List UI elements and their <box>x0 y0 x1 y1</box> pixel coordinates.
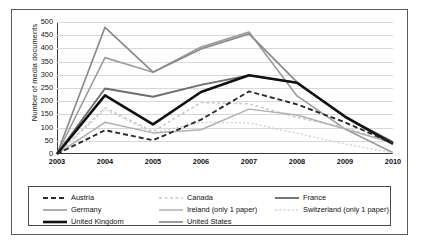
chart-legend: AustriaGermanyUnited KingdomCanadaIrelan… <box>28 186 391 226</box>
y-axis-tick-labels: 500450400350300250200150100500 <box>29 22 53 154</box>
legend-swatch-icon <box>275 193 299 203</box>
legend-item[interactable]: Ireland (only 1 paper) <box>159 204 257 215</box>
series-lines <box>57 22 393 154</box>
legend-label: United States <box>187 218 231 225</box>
series-line-united-kingdom <box>57 75 393 154</box>
legend-label: Austria <box>71 194 94 201</box>
x-tick-label: 2008 <box>289 157 305 166</box>
legend-item[interactable]: Austria <box>43 192 94 203</box>
x-tick-label: 2009 <box>337 157 353 166</box>
y-tick-label: 50 <box>45 137 53 144</box>
y-tick-label: 100 <box>41 124 53 131</box>
y-tick-label: 350 <box>41 58 53 65</box>
y-tick-label: 450 <box>41 31 53 38</box>
x-tick-label: 2006 <box>193 157 209 166</box>
plot-block: Number of media documents 50045040035030… <box>12 10 407 178</box>
x-axis-tick-labels: 20032004200520062007200820092010 <box>57 157 393 171</box>
legend-label: United Kingdom <box>71 218 124 225</box>
legend-item[interactable]: Switzerland (only 1 paper) <box>275 204 389 215</box>
chart-figure: Number of media documents 50045040035030… <box>11 9 408 235</box>
y-tick-label: 400 <box>41 45 53 52</box>
legend-item[interactable]: United Kingdom <box>43 216 124 227</box>
legend-item[interactable]: Canada <box>159 192 213 203</box>
legend-swatch-icon <box>43 193 67 203</box>
y-tick-label: 250 <box>41 84 53 91</box>
legend-swatch-icon <box>159 193 183 203</box>
legend-swatch-icon <box>159 205 183 215</box>
y-tick-label: 300 <box>41 71 53 78</box>
legend-label: Switzerland (only 1 paper) <box>303 206 389 213</box>
series-line-germany <box>57 32 393 154</box>
legend-swatch-icon <box>43 205 67 215</box>
x-tick-label: 2003 <box>49 157 65 166</box>
x-tick-label: 2005 <box>145 157 161 166</box>
legend-label: Ireland (only 1 paper) <box>187 206 257 213</box>
series-line-united-states <box>57 27 393 154</box>
legend-label: France <box>303 194 326 201</box>
x-tick-label: 2010 <box>385 157 401 166</box>
legend-item[interactable]: United States <box>159 216 231 227</box>
plot-area <box>57 22 393 154</box>
y-tick-label: 150 <box>41 111 53 118</box>
legend-label: Canada <box>187 194 213 201</box>
y-tick-label: 500 <box>41 18 53 25</box>
x-tick-label: 2007 <box>241 157 257 166</box>
legend-swatch-icon <box>43 217 67 227</box>
x-tick-label: 2004 <box>97 157 113 166</box>
legend-label: Germany <box>71 206 101 213</box>
legend-item[interactable]: France <box>275 192 326 203</box>
legend-item[interactable]: Germany <box>43 204 101 215</box>
legend-swatch-icon <box>159 217 183 227</box>
y-tick-label: 200 <box>41 97 53 104</box>
legend-grid: AustriaGermanyUnited KingdomCanadaIrelan… <box>29 187 390 225</box>
legend-swatch-icon <box>275 205 299 215</box>
